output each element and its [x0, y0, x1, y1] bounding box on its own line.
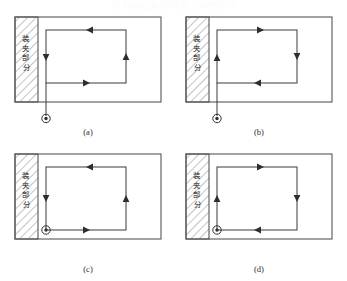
- arrow-bottom-right: [83, 227, 90, 234]
- panel-b-label: (b): [179, 126, 339, 138]
- figure-panel-c: 装 夹 部 分 (c): [8, 148, 168, 281]
- toolpath-rectangle: [217, 30, 297, 83]
- toolpath-rectangle: [46, 167, 126, 230]
- arrow-top-left: [86, 164, 93, 171]
- arrow-top-right: [257, 27, 264, 34]
- figure-panel-a: 装 夹 部 分: [8, 11, 168, 145]
- clamp-region-label: 装 夹 部 分: [193, 34, 202, 72]
- arrow-right-down: [294, 195, 301, 202]
- arrow-top-left: [86, 27, 93, 34]
- panel-b-drawing: 装 夹 部 分: [179, 11, 339, 129]
- arrow-bottom-left: [254, 227, 261, 234]
- clamp-region-label: 装 夹 部 分: [193, 171, 202, 209]
- panel-d-canvas: 装 夹 部 分: [179, 148, 339, 266]
- panel-a-canvas: 装 夹 部 分: [8, 11, 168, 129]
- arrow-bottom-right: [83, 80, 90, 87]
- panel-c-canvas: 装 夹 部 分: [8, 148, 168, 266]
- figure-panel-b: 装 夹 部 分 (b): [179, 11, 339, 145]
- panel-d-label: (d): [179, 263, 339, 275]
- arrow-right-down: [294, 53, 301, 60]
- arrow-top-right: [257, 164, 264, 171]
- arrow-left-up: [214, 54, 221, 61]
- panel-c-label: (c): [8, 263, 168, 275]
- arrow-right-up: [123, 53, 130, 60]
- panel-a-drawing: 装 夹 部 分: [8, 11, 168, 129]
- arrow-left-up: [214, 195, 221, 202]
- arrow-left-down: [43, 54, 50, 61]
- panel-b-canvas: 装 夹 部 分: [179, 11, 339, 129]
- toolpath-rectangle: [217, 167, 297, 230]
- panel-a-label: (a): [8, 126, 168, 138]
- arrow-left-down: [43, 195, 50, 202]
- arrow-bottom-left: [254, 80, 261, 87]
- clamp-region-label: 装 夹 部 分: [22, 171, 31, 209]
- arrow-right-up: [123, 195, 130, 202]
- figure-top-caption: 图 机床加工路径示意图 刀具进给方向: [0, 0, 347, 11]
- toolpath-rectangle: [46, 30, 126, 83]
- panel-d-drawing: 装 夹 部 分: [179, 148, 339, 266]
- clamp-region-label: 装 夹 部 分: [22, 34, 31, 72]
- panel-c-drawing: 装 夹 部 分: [8, 148, 168, 266]
- figure-panel-d: 装 夹 部 分 (d): [179, 148, 339, 281]
- figure-panel-grid: 装 夹 部 分: [0, 11, 347, 281]
